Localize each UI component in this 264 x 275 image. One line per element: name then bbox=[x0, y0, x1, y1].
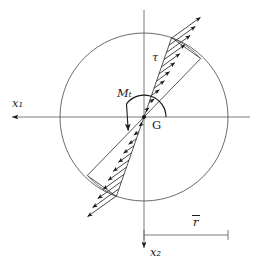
axis-group bbox=[12, 10, 250, 248]
centroid-label: G bbox=[152, 120, 161, 132]
radius-label: r bbox=[193, 217, 199, 229]
diagram-canvas bbox=[0, 0, 264, 275]
moment-arc bbox=[127, 95, 167, 117]
shear-distribution-upper bbox=[144, 17, 201, 117]
axis-label-x1: x₁ bbox=[12, 98, 23, 110]
moment-label: Mₜ bbox=[117, 88, 132, 100]
stress-arrows-lower bbox=[88, 124, 142, 216]
radius-dimension-group bbox=[144, 230, 228, 240]
shear-distribution-lower bbox=[87, 117, 144, 217]
axis-label-x2: x₂ bbox=[150, 247, 161, 259]
torsion-diagram-figure: x₁ x₂ Mₜ G τ r bbox=[0, 0, 264, 275]
shear-stress-label: τ bbox=[152, 52, 158, 64]
centroid-point bbox=[142, 115, 146, 119]
wedge-outline-lower bbox=[87, 117, 144, 196]
